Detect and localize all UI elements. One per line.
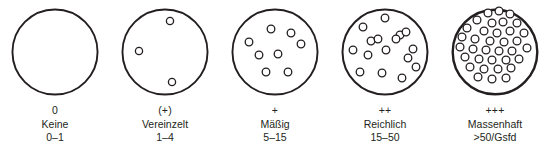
cell-marker <box>364 51 372 59</box>
cell-marker <box>456 43 464 51</box>
grade-column-1: (+) Vereinzelt 1–4 <box>110 0 220 152</box>
grade-labels-0: 0 Keine 0–1 <box>0 104 110 145</box>
field-boundary-circle <box>12 9 97 94</box>
grade-symbol-4: +++ <box>440 104 550 118</box>
cell-marker <box>494 65 502 73</box>
cell-marker <box>482 46 490 54</box>
grade-symbol-1: (+) <box>110 104 220 118</box>
cell-marker <box>381 14 389 22</box>
field-circle-svg-3 <box>330 0 440 104</box>
cell-marker <box>502 56 510 64</box>
microscopy-field-1 <box>110 0 220 104</box>
cell-marker <box>463 24 471 32</box>
cell-marker <box>506 27 514 35</box>
cell-marker <box>488 56 496 64</box>
grade-symbol-2: + <box>220 104 330 118</box>
cell-marker <box>475 55 483 63</box>
cell-marker <box>502 74 510 82</box>
field-circle-svg-0 <box>0 0 110 104</box>
cell-marker <box>513 37 521 45</box>
cell-marker <box>402 28 410 36</box>
cell-marker <box>474 73 482 81</box>
cell-marker <box>356 68 364 76</box>
grade-name-1: Vereinzelt <box>110 118 220 132</box>
grade-symbol-3: ++ <box>330 104 440 118</box>
grade-name-0: Keine <box>0 118 110 132</box>
field-circle-svg-2 <box>220 0 330 104</box>
semiquantitative-grading-figure: 0 Keine 0–1 (+) Vereinzelt 1–4 + Mäßig 5… <box>0 0 550 152</box>
cell-marker <box>506 10 514 18</box>
grade-column-3: ++ Reichlich 15–50 <box>330 0 440 152</box>
grade-name-4: Massenhaft <box>440 118 550 132</box>
cell-marker <box>166 17 173 24</box>
cell-marker <box>382 46 390 54</box>
cell-marker <box>484 9 492 17</box>
cell-marker <box>349 46 357 54</box>
cell-marker <box>458 33 466 41</box>
cell-marker <box>495 7 503 15</box>
cell-marker <box>499 18 507 26</box>
grade-column-2: + Mäßig 5–15 <box>220 0 330 152</box>
cell-marker <box>480 65 488 73</box>
cell-marker <box>287 29 295 37</box>
cell-marker <box>412 63 420 71</box>
grade-range-3: 15–50 <box>330 131 440 145</box>
cell-marker <box>404 54 412 62</box>
cell-marker <box>392 35 400 43</box>
cell-marker <box>508 47 516 55</box>
grade-range-2: 5–15 <box>220 131 330 145</box>
cell-marker <box>471 35 479 43</box>
cell-marker <box>515 55 523 63</box>
cell-marker <box>378 69 386 77</box>
cell-marker <box>486 37 494 45</box>
grade-labels-4: +++ Massenhaft >50/Gsfd <box>440 104 550 145</box>
microscopy-field-4 <box>440 0 550 104</box>
cell-marker <box>409 45 417 53</box>
cell-marker <box>513 19 521 27</box>
cell-marker <box>398 74 406 82</box>
cell-marker <box>267 25 275 33</box>
cell-marker <box>473 16 481 24</box>
cell-marker <box>359 23 367 31</box>
cell-marker <box>284 68 292 76</box>
microscopy-field-0 <box>0 0 110 104</box>
grade-labels-3: ++ Reichlich 15–50 <box>330 104 440 145</box>
grade-name-2: Mäßig <box>220 118 330 132</box>
grade-labels-1: (+) Vereinzelt 1–4 <box>110 104 220 145</box>
cell-marker <box>274 50 282 58</box>
cell-marker <box>523 44 531 52</box>
grade-range-4: >50/Gsfd <box>440 131 550 145</box>
cell-marker <box>488 75 496 83</box>
field-circle-svg-4 <box>440 0 550 104</box>
cell-marker <box>495 47 503 55</box>
cell-marker <box>507 64 515 72</box>
cell-marker <box>480 27 488 35</box>
field-circle-svg-1 <box>110 0 220 104</box>
grade-name-3: Reichlich <box>330 118 440 132</box>
cell-marker <box>135 47 142 54</box>
cell-marker <box>297 40 305 48</box>
cell-marker <box>500 38 508 46</box>
cell-marker <box>461 53 469 61</box>
microscopy-field-2 <box>220 0 330 104</box>
cell-marker <box>469 45 477 53</box>
cell-marker <box>493 29 501 37</box>
grade-labels-2: + Mäßig 5–15 <box>220 104 330 145</box>
cell-marker <box>466 63 474 71</box>
microscopy-field-3 <box>330 0 440 104</box>
grade-range-0: 0–1 <box>0 131 110 145</box>
cell-marker <box>262 68 270 76</box>
cell-marker <box>488 19 496 27</box>
grade-column-0: 0 Keine 0–1 <box>0 0 110 152</box>
grade-range-1: 1–4 <box>110 131 220 145</box>
cell-marker <box>255 51 263 59</box>
cell-marker <box>245 38 253 46</box>
grade-column-4: +++ Massenhaft >50/Gsfd <box>440 0 550 152</box>
cell-marker <box>520 29 528 37</box>
grade-symbol-0: 0 <box>0 104 110 118</box>
cell-marker <box>374 35 382 43</box>
cell-marker <box>168 78 175 85</box>
